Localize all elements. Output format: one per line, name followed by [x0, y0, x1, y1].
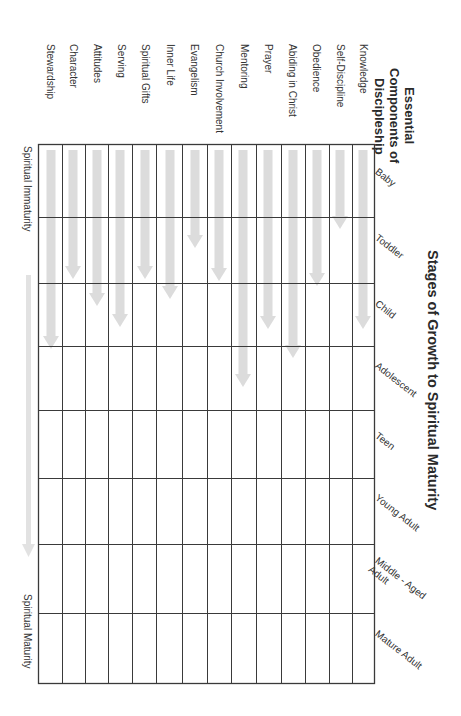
side-axis-arrow [22, 275, 35, 557]
arrow-mentoring [235, 150, 251, 387]
arrow-evangelism [187, 150, 203, 248]
growth-grid [0, 0, 461, 716]
spiritual-maturity-label: Spiritual Maturity [22, 594, 33, 668]
arrow-abiding-in-christ [285, 150, 301, 358]
arrow-attitudes [89, 150, 105, 306]
arrow-character [65, 150, 81, 279]
grid-lines [38, 144, 375, 684]
spiritual-immaturity-label: Spiritual Immaturity [22, 146, 33, 232]
arrow-prayer [260, 150, 276, 329]
arrow-serving [112, 150, 128, 327]
arrow-spiritual-gifts [137, 150, 153, 279]
arrow-knowledge [355, 150, 371, 329]
arrow-church-involvement [211, 150, 227, 281]
arrow-stewardship [43, 150, 59, 349]
arrow-inner-life [162, 150, 178, 299]
